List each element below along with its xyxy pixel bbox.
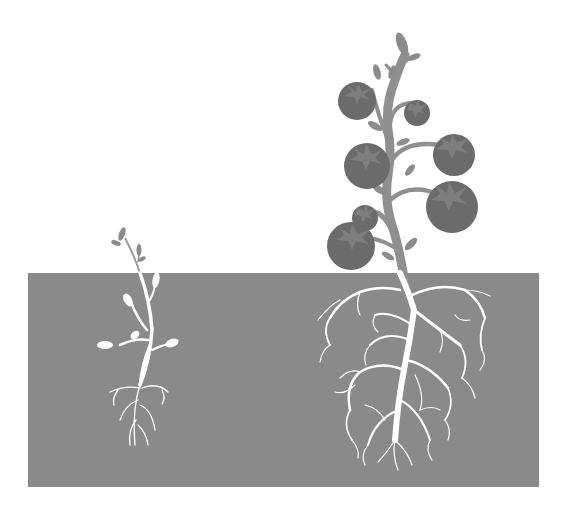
soil-ground bbox=[28, 273, 539, 487]
tomato-icon bbox=[344, 143, 390, 189]
tomato-icon bbox=[338, 82, 376, 120]
tomato-icon bbox=[327, 222, 375, 270]
plant-root-illustration bbox=[0, 0, 565, 513]
tomato-icon bbox=[433, 133, 475, 176]
tomato-icon bbox=[426, 181, 478, 233]
tomatoes bbox=[327, 82, 478, 270]
